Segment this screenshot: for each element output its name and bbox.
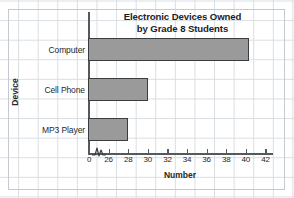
bar-cell-phone bbox=[88, 78, 148, 101]
x-tick-26 bbox=[109, 149, 110, 154]
x-tick-0 bbox=[89, 149, 90, 154]
x-tick-34 bbox=[187, 149, 188, 154]
category-label-cell-phone: Cell Phone bbox=[44, 85, 85, 95]
x-tick-label: 36 bbox=[197, 155, 217, 164]
bar-chart-plot: Electronic Devices Owned by Grade 8 Stud… bbox=[0, 0, 294, 198]
x-tick-36 bbox=[207, 149, 208, 154]
x-tick-32 bbox=[167, 149, 168, 154]
category-label-mp3-player: MP3 Player bbox=[42, 125, 85, 135]
x-axis-title: Number bbox=[120, 170, 240, 180]
chart-title-line-1: Electronic Devices Owned bbox=[95, 11, 270, 23]
x-tick-label: 40 bbox=[236, 155, 256, 164]
x-tick-label: 26 bbox=[99, 155, 119, 164]
x-tick-38 bbox=[226, 149, 227, 154]
y-axis-title: Device bbox=[10, 62, 20, 122]
x-tick-label: 38 bbox=[216, 155, 236, 164]
x-tick-28 bbox=[128, 149, 129, 154]
x-tick-label: 34 bbox=[177, 155, 197, 164]
x-tick-label: 28 bbox=[118, 155, 138, 164]
x-tick-42 bbox=[265, 149, 266, 154]
x-tick-label: 0 bbox=[79, 155, 99, 164]
x-tick-40 bbox=[246, 149, 247, 154]
chart-screenshot: Electronic Devices Owned by Grade 8 Stud… bbox=[0, 0, 294, 198]
x-tick-label: 32 bbox=[157, 155, 177, 164]
bar-mp3-player bbox=[88, 118, 128, 141]
category-label-computer: Computer bbox=[48, 45, 85, 55]
x-tick-label: 42 bbox=[255, 155, 275, 164]
chart-title: Electronic Devices Owned by Grade 8 Stud… bbox=[95, 11, 270, 34]
x-tick-30 bbox=[148, 149, 149, 154]
bar-computer bbox=[88, 38, 249, 61]
chart-title-line-2: by Grade 8 Students bbox=[95, 23, 270, 35]
x-tick-label: 30 bbox=[138, 155, 158, 164]
